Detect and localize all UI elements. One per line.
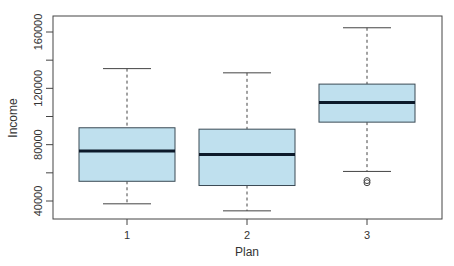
- x-tick-label: 3: [364, 229, 370, 241]
- y-tick-label: 120000: [32, 70, 44, 107]
- box-plan-1: [79, 69, 175, 204]
- y-tick-label: 40000: [32, 186, 44, 217]
- box-plan-2: [199, 73, 295, 211]
- x-tick-label: 1: [124, 229, 130, 241]
- x-axis-title: Plan: [235, 245, 259, 259]
- box-plan-3: [319, 28, 415, 186]
- iqr-box: [79, 128, 175, 182]
- x-tick-label: 2: [244, 229, 250, 241]
- iqr-box: [199, 129, 295, 185]
- boxplot-chart: 4000080000120000160000 123 Income Plan: [0, 0, 454, 266]
- y-axis: 4000080000120000160000: [32, 14, 53, 217]
- y-axis-title: Income: [6, 98, 20, 138]
- x-axis: 123: [124, 219, 370, 241]
- boxes: [79, 28, 415, 211]
- y-tick-label: 160000: [32, 14, 44, 51]
- y-tick-label: 80000: [32, 129, 44, 160]
